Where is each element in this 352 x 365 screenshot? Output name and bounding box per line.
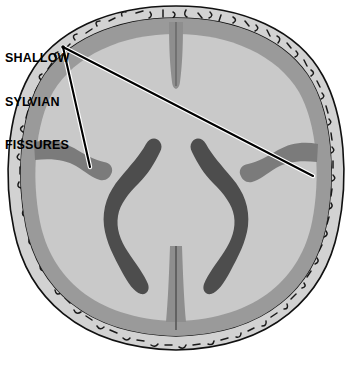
callout-label-line-1: SHALLOW [5,51,70,66]
brain-illustration-figure: SHALLOW SYLVIAN FISSURES [0,0,352,365]
callout-label-line-3: FISSURES [5,138,70,153]
callout-label-line-2: SYLVIAN [5,95,70,110]
callout-label: SHALLOW SYLVIAN FISSURES [5,22,70,182]
